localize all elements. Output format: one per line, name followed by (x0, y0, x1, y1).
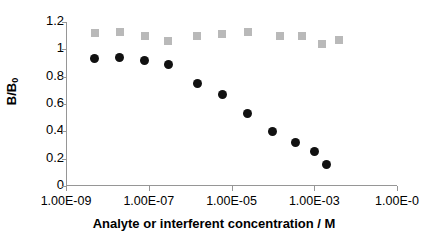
y-axis-tick-label: 0.8 (24, 71, 64, 81)
x-axis-tick-label: 1.00E-03 (271, 194, 357, 208)
x-axis-title: Analyte or interferent concentration / M (0, 216, 428, 231)
y-axis-title: B/B0 (4, 59, 19, 125)
data-point-interferent (141, 32, 149, 40)
x-axis-tick (314, 186, 315, 191)
data-point-analyte (115, 53, 124, 62)
data-point-analyte (140, 56, 149, 65)
x-axis-tick (66, 186, 67, 191)
y-axis-title-sub: 0 (10, 78, 20, 83)
data-point-analyte (291, 138, 300, 147)
x-axis-tick-label: 1.00E-09 (23, 194, 109, 208)
y-axis-tick-label: 0.2 (24, 153, 64, 163)
y-axis-title-main: B/B (4, 83, 19, 105)
y-axis-tick-label: 1.2 (24, 16, 64, 26)
data-point-interferent (298, 32, 306, 40)
data-point-interferent (276, 32, 284, 40)
data-point-analyte (243, 109, 252, 118)
data-point-interferent (218, 30, 226, 38)
data-point-interferent (164, 37, 172, 45)
data-point-analyte (322, 160, 331, 169)
data-point-interferent (318, 40, 326, 48)
x-axis-tick (232, 186, 233, 191)
plot-area (66, 22, 397, 186)
x-axis-tick-labels: 1.00E-091.00E-071.00E-051.00E-031.00E-0 (0, 194, 428, 212)
x-axis-tick-label: 1.00E-05 (189, 194, 275, 208)
data-point-analyte (218, 90, 227, 99)
data-point-interferent (335, 36, 343, 44)
y-axis-tick-label: 0 (24, 180, 64, 190)
x-axis-tick-label: 1.00E-0 (354, 194, 428, 208)
y-axis-tick-label: 0.6 (24, 98, 64, 108)
data-point-analyte (268, 127, 277, 136)
data-point-analyte (193, 79, 202, 88)
data-point-analyte (90, 54, 99, 63)
y-axis-tick-label: 0.4 (24, 125, 64, 135)
data-point-interferent (91, 29, 99, 37)
data-point-analyte (164, 60, 173, 69)
data-point-interferent (193, 32, 201, 40)
y-axis-tick-label: 1 (24, 43, 64, 53)
data-point-interferent (244, 28, 252, 36)
x-axis-tick-label: 1.00E-07 (106, 194, 192, 208)
data-point-analyte (310, 147, 319, 156)
x-axis-tick (397, 186, 398, 191)
data-point-interferent (116, 28, 124, 36)
scatter-chart: B/B0 1.210.80.60.40.20 1.00E-091.00E-071… (0, 0, 428, 247)
x-axis-tick (149, 186, 150, 191)
